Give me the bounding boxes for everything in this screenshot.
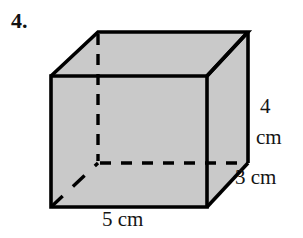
height-dimension-value: 4: [260, 96, 271, 117]
height-dimension-unit: cm: [256, 127, 282, 148]
depth-dimension-label: 3 cm: [235, 167, 276, 188]
width-dimension-label: 5 cm: [102, 209, 143, 230]
rectangular-prism-figure: [0, 0, 303, 238]
worksheet-figure-page: 4. 4 cm 3 cm 5 cm: [0, 0, 303, 238]
